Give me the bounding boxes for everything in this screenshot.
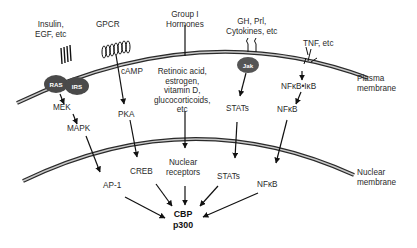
arrow-pka-creb <box>130 120 137 157</box>
label-insulin: Insulin, EGF, etc <box>35 20 66 39</box>
svg-text:Jak: Jak <box>243 62 254 69</box>
label-plasma-membrane: Plasma membrane <box>357 74 396 93</box>
svg-text:RAS: RAS <box>49 81 62 88</box>
arrow-ap1-cbp <box>125 197 165 218</box>
arrow-stats-cbp <box>200 186 218 206</box>
label-creb: CREB <box>130 167 153 177</box>
label-stats-cyto: STATs <box>226 104 249 114</box>
label-cytokines: GH, Prl, Cytokines, etc <box>226 17 277 36</box>
arrow-gpcr-pka <box>116 55 124 104</box>
label-group1-hormones: Group I Hormones <box>166 10 204 29</box>
ras-icon: RAS <box>44 75 68 93</box>
irs-icon: IRS <box>65 77 89 95</box>
arrow-nfkbikb-nfkb <box>296 92 301 104</box>
label-ligands: Retinoic acid, estrogen, vitamin D, gluc… <box>154 67 210 115</box>
label-camp: cAMP <box>121 67 143 77</box>
label-cbp-p300: CBP p300 <box>173 209 193 231</box>
label-tnf: TNF, etc <box>303 39 333 49</box>
arrow-mek-mapk <box>73 114 77 124</box>
label-nfkb-nuc: NFκB <box>257 180 277 190</box>
label-mapk: MAPK <box>67 124 90 134</box>
label-stats-nuc: STATs <box>217 172 240 182</box>
arrow-nfkb-cbp <box>203 193 258 217</box>
cytokine-receptor-icon <box>247 38 257 52</box>
svg-text:IRS: IRS <box>72 83 82 90</box>
label-nfkb-ikb: NFκB•IκB <box>281 82 316 92</box>
arrow-creb-cbp <box>156 184 172 206</box>
label-nuclear-receptors: Nuclear receptors <box>166 158 200 177</box>
label-ap1: AP-1 <box>103 181 121 191</box>
jak-icon: Jak <box>237 57 259 73</box>
label-nfkb-cyto: NFκB <box>277 105 297 115</box>
label-mek: MEK <box>53 103 71 113</box>
insulin-receptor-icon <box>61 45 71 64</box>
label-nuclear-membrane: Nuclear membrane <box>357 168 396 187</box>
arrow-jak-stats <box>240 73 246 96</box>
arrow-nfkb-nucnfkb <box>276 120 287 163</box>
label-pka: PKA <box>118 110 134 120</box>
label-gpcr: GPCR <box>96 20 120 30</box>
